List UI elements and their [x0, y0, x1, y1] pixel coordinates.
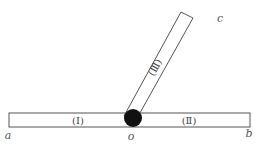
- point-label-c: c: [217, 12, 223, 25]
- point-label-a: a: [5, 129, 12, 142]
- rod-diagram: (Ⅰ) (Ⅱ) (Ⅲ) a o b c: [0, 0, 264, 149]
- point-label-b: b: [245, 127, 252, 140]
- rod-label-2: (Ⅱ): [182, 115, 197, 126]
- pivot-ball: [124, 109, 142, 127]
- rod-label-1: (Ⅰ): [72, 115, 84, 126]
- point-label-o: o: [128, 130, 135, 143]
